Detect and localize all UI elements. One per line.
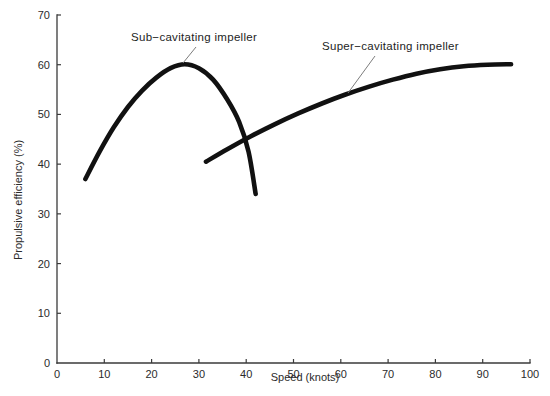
x-tick-label: 70 [382,368,394,380]
x-tick-label: 20 [145,368,157,380]
y-tick-label: 10 [38,307,50,319]
x-tick-label: 10 [98,368,110,380]
y-tick-label: 30 [38,208,50,220]
y-tick-label: 20 [38,258,50,270]
x-axis-title: Speed (knots) [271,371,339,383]
propulsive-efficiency-chart: 010203040506070 0102030405060708090100 S… [0,0,550,396]
y-axis-group: 010203040506070 [38,9,61,369]
y-tick-label: 0 [44,357,50,369]
series-curve-sub-cavitating-impeller [85,64,255,194]
y-tick-label: 60 [38,59,50,71]
annotation-label-1: Sub−cavitating impeller [131,31,257,43]
x-tick-label: 40 [240,368,252,380]
chart-page: 010203040506070 0102030405060708090100 S… [0,0,550,396]
annotation-leader-1 [183,47,196,63]
series-group [85,64,511,194]
annotation-label-2: Super−cavitating impeller [322,40,459,52]
y-tick-label: 50 [38,108,50,120]
y-tick-label: 70 [38,9,50,21]
x-tick-label: 80 [429,368,441,380]
x-tick-label: 0 [54,368,60,380]
x-tick-label: 30 [193,368,205,380]
x-tick-label: 90 [477,368,489,380]
y-tick-label: 40 [38,158,50,170]
x-tick-label: 100 [521,368,539,380]
annotation-group: Sub−cavitating impellerSuper−cavitating … [131,31,459,93]
y-axis-title: Propulsive efficiency (%) [12,140,24,260]
